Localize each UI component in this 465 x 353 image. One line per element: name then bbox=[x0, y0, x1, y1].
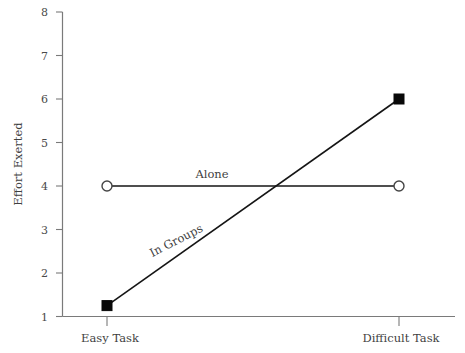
chart-container: 8 7 6 5 4 3 2 1 Effort Exerted Easy Task… bbox=[0, 0, 465, 353]
y-tick-label-2: 2 bbox=[41, 267, 48, 280]
series-label-alone: Alone bbox=[194, 167, 228, 181]
series-in-groups-point-difficult-task bbox=[394, 94, 404, 104]
x-tick-label-easy-task: Easy Task bbox=[81, 331, 140, 345]
y-tick-label-8: 8 bbox=[41, 6, 48, 19]
y-tick-label-7: 7 bbox=[41, 50, 48, 63]
y-tick-label-5: 5 bbox=[41, 137, 48, 150]
y-tick-label-3: 3 bbox=[41, 224, 48, 237]
chart-background bbox=[0, 0, 465, 353]
y-tick-label-6: 6 bbox=[41, 93, 48, 106]
y-tick-label-4: 4 bbox=[41, 180, 48, 193]
series-alone-point-difficult-task bbox=[394, 181, 404, 191]
y-tick-label-1: 1 bbox=[41, 311, 48, 324]
x-tick-label-difficult-task: Difficult Task bbox=[362, 331, 440, 345]
y-axis-title: Effort Exerted bbox=[11, 122, 25, 206]
series-alone-point-easy-task bbox=[102, 181, 112, 191]
series-in-groups-point-easy-task bbox=[102, 301, 112, 311]
effort-exerted-line-chart: 8 7 6 5 4 3 2 1 Effort Exerted Easy Task… bbox=[0, 0, 465, 353]
